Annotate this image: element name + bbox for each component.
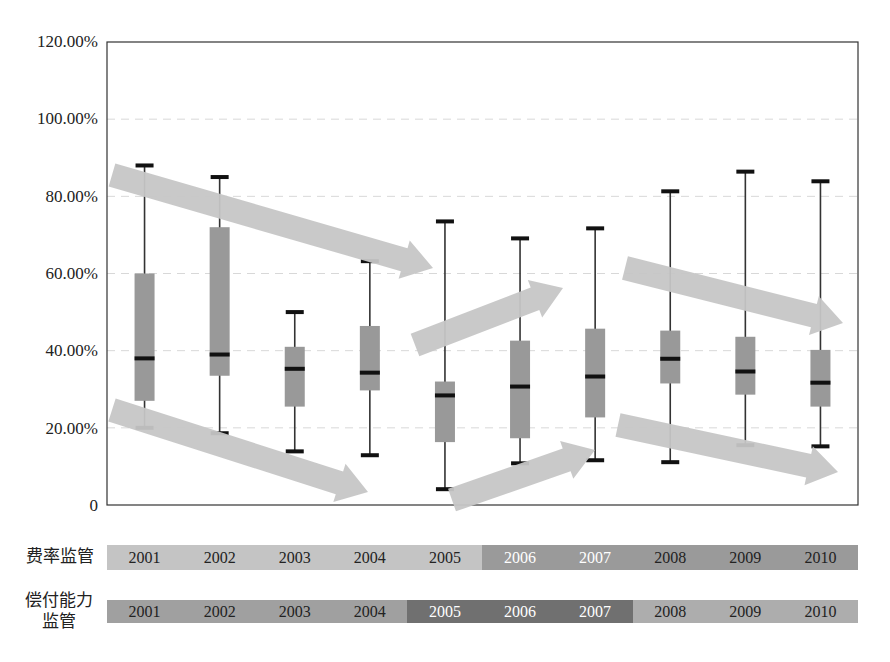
timeline-year-2005: 2005 bbox=[407, 600, 482, 623]
max-cap bbox=[736, 170, 754, 174]
box-2001 bbox=[135, 163, 155, 429]
max-cap bbox=[211, 175, 229, 179]
trend-arrow-down-icon bbox=[615, 413, 838, 485]
median-marker bbox=[285, 367, 305, 371]
timeline-label-rate-regulation: 费率监管 bbox=[20, 546, 100, 567]
median-marker bbox=[210, 353, 230, 357]
y-tick-20: 20.00% bbox=[0, 419, 98, 439]
timeline-year-2001: 2001 bbox=[107, 545, 182, 570]
box-2005 bbox=[435, 219, 455, 491]
trend-arrow-down-icon bbox=[622, 256, 843, 335]
y-tick-80: 80.00% bbox=[0, 187, 98, 207]
timeline-year-2010: 2010 bbox=[783, 600, 858, 623]
max-cap bbox=[286, 310, 304, 314]
timeline-year-2010: 2010 bbox=[783, 545, 858, 570]
median-marker bbox=[510, 385, 530, 389]
timeline-year-2004: 2004 bbox=[332, 545, 407, 570]
max-cap bbox=[136, 163, 154, 167]
timeline-year-2003: 2003 bbox=[257, 545, 332, 570]
max-cap bbox=[511, 236, 529, 240]
timeline-year-2007: 2007 bbox=[558, 545, 633, 570]
timeline-year-2002: 2002 bbox=[182, 600, 257, 623]
max-cap bbox=[811, 179, 829, 183]
median-marker bbox=[435, 393, 455, 397]
timeline-year-2005: 2005 bbox=[407, 545, 482, 570]
timeline-year-2009: 2009 bbox=[708, 545, 783, 570]
timeline-year-2007: 2007 bbox=[558, 600, 633, 623]
label-line-1: 偿付能力 bbox=[14, 590, 104, 611]
box-2006 bbox=[510, 236, 530, 465]
timeline-year-2004: 2004 bbox=[332, 600, 407, 623]
timeline-year-2002: 2002 bbox=[182, 545, 257, 570]
timeline-year-2006: 2006 bbox=[482, 600, 557, 623]
timeline-bar-solvency-regulation: 2001200220032004200520062007200820092010 bbox=[107, 600, 858, 623]
max-cap bbox=[661, 189, 679, 193]
timeline-year-2008: 2008 bbox=[633, 600, 708, 623]
timeline-bar-rate-regulation: 2001200220032004200520062007200820092010 bbox=[107, 545, 858, 570]
median-marker bbox=[660, 357, 680, 361]
timeline-label-solvency-regulation: 偿付能力 监管 bbox=[14, 590, 104, 632]
y-tick-60: 60.00% bbox=[0, 264, 98, 284]
median-marker bbox=[360, 371, 380, 375]
y-tick-120: 120.00% bbox=[0, 32, 98, 52]
boxplot-chart bbox=[0, 0, 890, 530]
max-cap bbox=[436, 219, 454, 223]
max-cap bbox=[586, 226, 604, 230]
min-cap bbox=[361, 453, 379, 457]
median-marker bbox=[585, 375, 605, 379]
y-tick-0: 0 bbox=[0, 496, 98, 516]
trend-arrow-down-icon bbox=[109, 163, 433, 278]
min-cap bbox=[661, 460, 679, 464]
box-2007 bbox=[585, 226, 605, 462]
trend-arrow-down-icon bbox=[108, 399, 368, 502]
trend-arrow-up-icon bbox=[411, 280, 563, 356]
median-marker bbox=[810, 381, 830, 385]
y-tick-100: 100.00% bbox=[0, 109, 98, 129]
timeline-year-2006: 2006 bbox=[482, 545, 557, 570]
timeline-year-2003: 2003 bbox=[257, 600, 332, 623]
timeline-year-2008: 2008 bbox=[633, 545, 708, 570]
min-cap bbox=[586, 458, 604, 462]
min-cap bbox=[286, 449, 304, 453]
label-line-2: 监管 bbox=[14, 611, 104, 632]
y-tick-40: 40.00% bbox=[0, 341, 98, 361]
trend-arrow-up-icon bbox=[448, 441, 595, 511]
box-2003 bbox=[285, 310, 305, 453]
median-marker bbox=[735, 370, 755, 374]
timeline-year-2009: 2009 bbox=[708, 600, 783, 623]
timeline-year-2001: 2001 bbox=[107, 600, 182, 623]
median-marker bbox=[135, 356, 155, 360]
